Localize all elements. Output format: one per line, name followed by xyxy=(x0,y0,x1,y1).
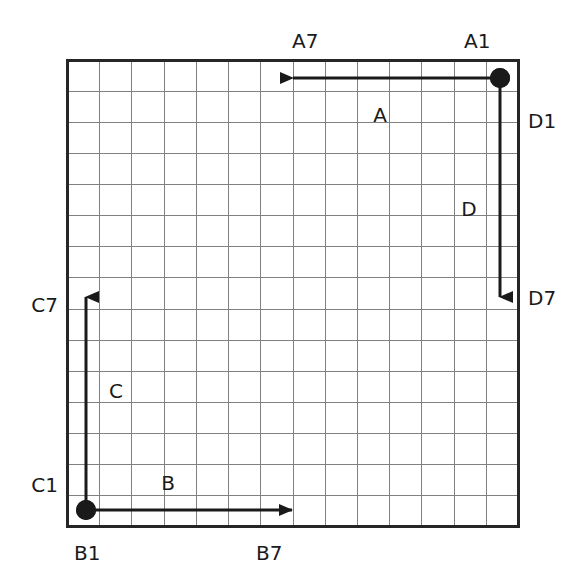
diagram-canvas: ADCB A7A1D1D7C7C1B1B7 xyxy=(0,0,580,585)
label-d7: D7 xyxy=(528,286,556,310)
label-a1: A1 xyxy=(464,29,490,53)
label-d1: D1 xyxy=(528,109,556,133)
label-c1: C1 xyxy=(31,473,58,497)
vector-label-a: A xyxy=(373,103,387,127)
label-b7: B7 xyxy=(256,541,282,565)
vector-label-c: C xyxy=(109,379,123,403)
vector-start-dot xyxy=(76,500,96,520)
grid-vector-diagram: ADCB A7A1D1D7C7C1B1B7 xyxy=(0,0,580,585)
vector-label-d: D xyxy=(461,197,476,221)
label-a7: A7 xyxy=(292,29,318,53)
label-b1: B1 xyxy=(74,541,100,565)
label-c7: C7 xyxy=(31,293,58,317)
vector-label-b: B xyxy=(161,471,175,495)
vector-start-dot xyxy=(490,68,510,88)
